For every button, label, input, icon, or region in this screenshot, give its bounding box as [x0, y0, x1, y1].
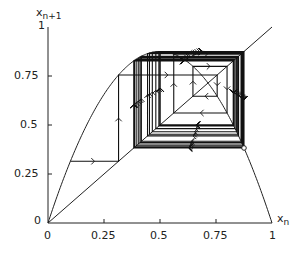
x-tick-label-05: 0.5 [150, 229, 168, 242]
y-tick-label-1: 1 [38, 19, 45, 32]
x-tick-label-025: 0.25 [91, 229, 116, 242]
y-tick-label-075: 0.75 [14, 69, 39, 82]
x-axis-label: xn [277, 212, 289, 225]
x-tick-label-0: 0 [44, 229, 51, 242]
y-tick-label-025: 0.25 [14, 167, 39, 180]
y-tick-label-05: 0.5 [20, 118, 38, 131]
plot-area [48, 27, 272, 223]
x-tick-label-075: 0.75 [203, 229, 228, 242]
cobweb-chart [0, 0, 301, 259]
y-tick-label-0: 0 [34, 214, 41, 227]
fixed-point-marker [242, 146, 247, 151]
y-axis-label: xn+1 [36, 6, 62, 19]
x-tick-label-1: 1 [269, 229, 276, 242]
